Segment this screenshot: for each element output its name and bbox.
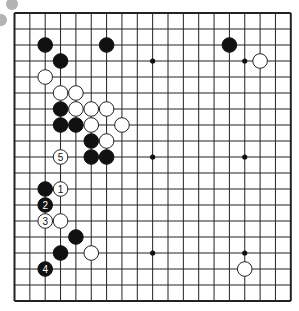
black-stone[interactable]: [84, 150, 99, 165]
black-stone-disc: [69, 230, 84, 245]
black-stone[interactable]: 4: [38, 262, 53, 277]
move-number-label: 3: [42, 216, 48, 227]
black-stone[interactable]: [84, 134, 99, 149]
move-number-label: 5: [58, 152, 64, 163]
white-stone[interactable]: [38, 70, 53, 85]
white-stone-disc: [115, 118, 130, 133]
white-stone-disc: [53, 86, 68, 101]
white-stone-disc: [38, 70, 53, 85]
white-stone[interactable]: [53, 86, 68, 101]
star-point: [150, 154, 155, 159]
star-point: [242, 58, 247, 63]
star-point: [150, 250, 155, 255]
black-stone-disc: [222, 38, 237, 53]
black-stone[interactable]: 2: [38, 198, 53, 213]
black-stone[interactable]: [69, 230, 84, 245]
white-stone[interactable]: [253, 54, 268, 69]
white-stone[interactable]: 1: [53, 182, 68, 197]
white-stone-disc: [99, 134, 114, 149]
white-stone[interactable]: [99, 102, 114, 117]
black-stone[interactable]: [53, 102, 68, 117]
black-stone-disc: [38, 38, 53, 53]
black-stone-disc: [38, 182, 53, 197]
white-stone[interactable]: 5: [53, 150, 68, 165]
star-point: [150, 58, 155, 63]
black-stone[interactable]: [53, 54, 68, 69]
white-stone-disc: [99, 102, 114, 117]
black-stone-disc: [84, 150, 99, 165]
go-board[interactable]: 51234: [0, 0, 299, 311]
white-stone[interactable]: 3: [38, 214, 53, 229]
star-point: [242, 250, 247, 255]
black-stone-disc: [69, 118, 84, 133]
black-stone[interactable]: [222, 38, 237, 53]
white-stone[interactable]: [69, 102, 84, 117]
move-number-label: 2: [42, 200, 48, 211]
white-stone-disc: [69, 102, 84, 117]
black-stone[interactable]: [53, 118, 68, 133]
white-stone-disc: [53, 214, 68, 229]
white-stone-disc: [237, 262, 252, 277]
white-stone-disc: [84, 118, 99, 133]
black-stone-disc: [53, 102, 68, 117]
black-stone-disc: [99, 150, 114, 165]
move-number-label: 4: [42, 264, 48, 275]
white-stone[interactable]: [237, 262, 252, 277]
white-stone[interactable]: [115, 118, 130, 133]
white-stone[interactable]: [69, 86, 84, 101]
white-stone-disc: [253, 54, 268, 69]
black-stone[interactable]: [69, 118, 84, 133]
black-stone[interactable]: [38, 182, 53, 197]
star-point: [242, 154, 247, 159]
black-stone[interactable]: [99, 38, 114, 53]
white-stone-disc: [84, 102, 99, 117]
white-stone-disc: [69, 86, 84, 101]
black-stone[interactable]: [99, 150, 114, 165]
white-stone[interactable]: [84, 118, 99, 133]
white-stone[interactable]: [99, 134, 114, 149]
black-stone[interactable]: [38, 38, 53, 53]
black-stone-disc: [53, 246, 68, 261]
white-stone[interactable]: [84, 246, 99, 261]
white-stone-disc: [84, 246, 99, 261]
black-stone-disc: [53, 54, 68, 69]
white-stone[interactable]: [84, 102, 99, 117]
black-stone-disc: [53, 118, 68, 133]
black-stone[interactable]: [53, 246, 68, 261]
white-stone[interactable]: [53, 214, 68, 229]
black-stone-disc: [99, 38, 114, 53]
move-number-label: 1: [58, 184, 64, 195]
black-stone-disc: [84, 134, 99, 149]
